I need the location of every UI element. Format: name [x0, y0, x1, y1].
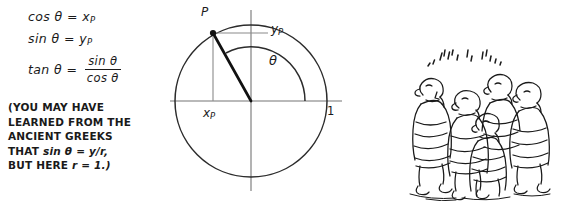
- cartoon-svg: [396, 42, 569, 201]
- parenthetical-note: (YOU MAY HAVE LEARNED FROM THE ANCIENT G…: [8, 100, 131, 173]
- equation-sine: sin θ = yP: [28, 31, 93, 47]
- equals-sign: =: [67, 62, 78, 77]
- fraction-denominator: cos θ: [85, 69, 121, 85]
- note-line-4: THAT sin θ = y/r,: [8, 144, 131, 159]
- note-line-5: BUT HERE r = 1.): [8, 158, 131, 173]
- note-line-5-formula: r = 1.): [72, 159, 111, 171]
- greek-figure-1: [413, 79, 452, 195]
- ancient-greeks-cartoon: [396, 42, 569, 201]
- sine-rhs: y: [79, 31, 87, 46]
- theta-symbol: θ: [55, 9, 63, 24]
- greek-figure-2: [448, 91, 489, 200]
- sine-lhs: sin: [28, 31, 47, 46]
- unit-circle-diagram: P yP xP θ 1: [160, 0, 375, 201]
- angle-arc: [226, 47, 305, 101]
- textbook-figure: cos θ = xP sin θ = yP tan θ = sin θ cos …: [0, 0, 569, 201]
- theta-symbol: θ: [51, 31, 59, 46]
- label-radius-one: 1: [327, 104, 334, 118]
- theta-symbol: θ: [54, 62, 62, 77]
- label-x-subscript: P: [210, 111, 215, 121]
- label-y-p: yP: [271, 22, 283, 37]
- note-line-2: LEARNED FROM THE: [8, 115, 131, 130]
- tangent-fraction: sin θ cos θ: [85, 54, 121, 85]
- cosine-rhs: x: [82, 9, 90, 24]
- sine-rhs-subscript: P: [87, 37, 93, 47]
- tangent-lhs: tan: [28, 62, 50, 77]
- label-x-p: xP: [203, 106, 215, 121]
- scribble-chatter-icon: [428, 50, 501, 66]
- fraction-numerator: sin θ: [85, 54, 121, 69]
- note-line-1: (YOU MAY HAVE: [8, 100, 131, 115]
- ground-shading: [410, 194, 550, 201]
- point-p-marker: [210, 30, 216, 36]
- equals-sign: =: [64, 31, 75, 46]
- label-point-p: P: [201, 5, 208, 19]
- equations-block: cos θ = xP sin θ = yP tan θ = sin θ cos …: [0, 0, 168, 201]
- equation-cosine: cos θ = xP: [28, 9, 96, 25]
- label-y-subscript: P: [278, 27, 283, 37]
- equals-sign: =: [67, 9, 78, 24]
- unit-circle-svg: [160, 0, 375, 201]
- equation-tangent: tan θ = sin θ cos θ: [28, 55, 121, 86]
- note-line-4-formula: sin θ = y/r,: [43, 145, 108, 157]
- cosine-lhs: cos: [28, 9, 50, 24]
- label-theta: θ: [269, 53, 277, 68]
- note-line-5-prefix: BUT HERE: [8, 159, 72, 171]
- note-line-3: ANCIENT GREEKS: [8, 129, 131, 144]
- note-line-4-prefix: THAT: [8, 145, 43, 157]
- radius-line: [213, 33, 251, 101]
- cosine-rhs-subscript: P: [90, 15, 96, 25]
- greek-figure-4: [510, 83, 550, 194]
